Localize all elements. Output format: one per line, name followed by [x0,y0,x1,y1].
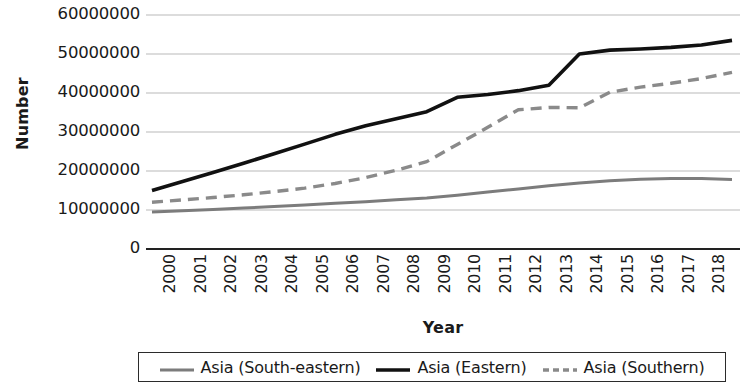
legend-label: Asia (Southern) [584,358,705,377]
x-axis-tick-label: 2014 [587,254,606,314]
y-axis-tick-label: 50000000 [12,43,140,62]
x-axis-tick-labels: 2000200120022003200420052006200720082009… [146,250,740,320]
plot-area [146,0,740,258]
legend-item[interactable]: Asia (South-eastern) [160,358,361,377]
y-axis-tick-label: 40000000 [12,82,140,101]
series-line [152,72,732,202]
line-chart: Number 010000000200000003000000040000000… [0,0,740,386]
x-axis-tick-label: 2007 [374,254,393,314]
x-axis-title: Year [146,318,740,337]
series-line [152,178,732,212]
x-axis-tick-label: 2005 [313,254,332,314]
x-axis-tick-label: 2012 [526,254,545,314]
plot-svg [146,0,740,258]
legend-item[interactable]: Asia (Southern) [543,358,705,377]
x-axis-tick-label: 2003 [252,254,271,314]
x-axis-tick-label: 2016 [648,254,667,314]
series-line [152,40,732,190]
line-dashed-gray-icon [543,361,577,373]
x-axis-tick-label: 2002 [221,254,240,314]
y-axis-tick-label: 0 [12,238,140,257]
chart-legend: Asia (South-eastern)Asia (Eastern)Asia (… [138,352,726,382]
x-axis-tick-label: 2015 [618,254,637,314]
x-axis-tick-label: 2011 [496,254,515,314]
x-axis-tick-label: 2006 [343,254,362,314]
y-axis-tick-labels: 0100000002000000030000000400000005000000… [0,0,140,386]
x-axis-tick-label: 2004 [282,254,301,314]
y-axis-tick-label: 30000000 [12,121,140,140]
x-axis-tick-label: 2001 [191,254,210,314]
legend-item[interactable]: Asia (Eastern) [376,358,526,377]
x-axis-tick-label: 2008 [404,254,423,314]
x-axis-tick-label: 2017 [679,254,698,314]
line-solid-gray-icon [160,361,194,373]
x-axis-tick-label: 2009 [435,254,454,314]
x-axis-tick-label: 2000 [160,254,179,314]
x-axis-tick-label: 2018 [709,254,728,314]
legend-label: Asia (Eastern) [417,358,526,377]
y-axis-tick-label: 10000000 [12,199,140,218]
y-axis-tick-label: 20000000 [12,160,140,179]
y-axis-tick-label: 60000000 [12,4,140,23]
line-solid-black-icon [376,361,410,373]
x-axis-tick-label: 2010 [465,254,484,314]
x-axis-tick-label: 2013 [557,254,576,314]
legend-label: Asia (South-eastern) [201,358,361,377]
